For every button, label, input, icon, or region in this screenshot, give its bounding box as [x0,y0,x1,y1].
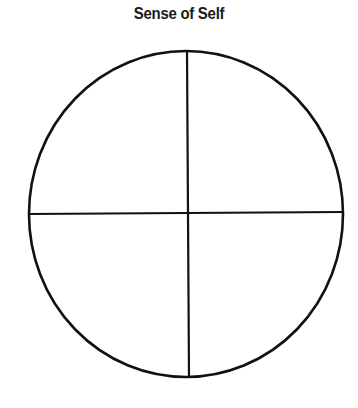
quadrant-bottom-left [40,222,180,362]
quadrant-circle-diagram [0,0,358,408]
quadrant-top-right [195,70,335,205]
horizontal-divider [29,212,343,214]
quadrant-bottom-right [195,222,335,362]
quadrant-top-left [40,70,180,205]
